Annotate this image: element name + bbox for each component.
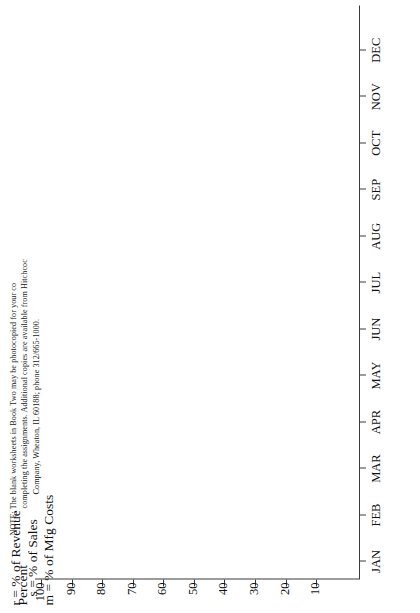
y-tick-label-70: 70 (125, 582, 139, 595)
y-axis-title: Percent (15, 565, 31, 605)
x-tick-jul (359, 281, 366, 282)
x-axis-label-oct: OCT (369, 130, 383, 155)
x-tick-mar (359, 467, 366, 468)
y-tick-label-40: 40 (216, 582, 230, 595)
y-tick-label-90: 90 (64, 582, 78, 595)
note-line-2: completing the assignments. Additional c… (19, 131, 30, 535)
x-tick-jan (359, 560, 366, 561)
plot-area: Percent 100908070605040302010 JANFEBMARA… (35, 5, 415, 579)
x-axis-label-apr: APR (369, 409, 383, 433)
x-axis-label-jun: JUN (369, 317, 383, 340)
x-tick-aug (359, 235, 366, 236)
x-tick-nov (359, 95, 366, 96)
x-axis-label-aug: AUG (369, 222, 383, 249)
y-tick-label-30: 30 (247, 582, 261, 595)
x-tick-sep (359, 188, 366, 189)
x-tick-feb (359, 514, 366, 515)
x-tick-apr (359, 421, 366, 422)
x-tick-oct (359, 142, 366, 143)
x-axis-label-dec: DEC (369, 37, 383, 62)
note-line-1: NOTE: The blank worksheets in Book Two m… (8, 131, 19, 535)
x-axis-label-jul: JUL (369, 271, 383, 293)
y-tick-label-50: 50 (186, 582, 200, 595)
y-tick-label-10: 10 (308, 582, 322, 595)
x-axis-label-mar: MAR (369, 454, 383, 482)
x-tick-may (359, 374, 366, 375)
y-tick-label-20: 20 (278, 582, 292, 595)
y-tick-label-80: 80 (94, 582, 108, 595)
x-axis-label-sep: SEP (369, 178, 383, 200)
y-tick-label-100: 100 (33, 582, 47, 601)
y-axis-line (35, 578, 359, 579)
x-axis-label-jan: JAN (369, 550, 383, 573)
x-axis-line (359, 5, 360, 579)
x-axis-label-may: MAY (369, 361, 383, 389)
x-tick-dec (359, 49, 366, 50)
scanned-page-sheet: NOTE: The blank worksheets in Book Two m… (0, 0, 420, 613)
x-tick-jun (359, 328, 366, 329)
x-axis-label-feb: FEB (369, 503, 383, 526)
x-axis-label-nov: NOV (369, 83, 383, 110)
y-tick-label-60: 60 (155, 582, 169, 595)
